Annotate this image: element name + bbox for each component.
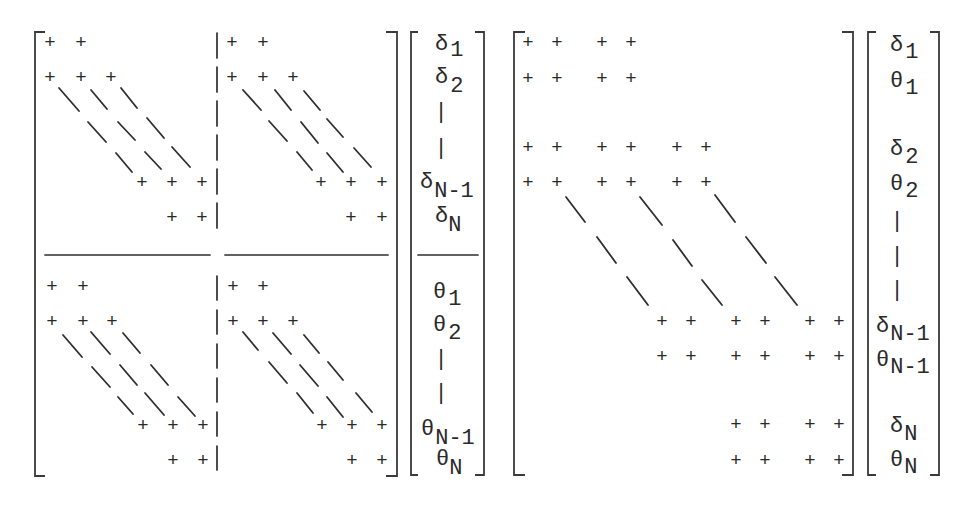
nonzero-entry: + [226, 32, 237, 54]
left-matrix-left-bracket [35, 32, 45, 476]
nonzero-entry: + [287, 67, 298, 89]
nonzero-entry: + [257, 32, 268, 54]
vertical-ellipsis: | [890, 244, 903, 269]
nonzero-entry: + [345, 172, 356, 194]
nonzero-entry: + [167, 415, 178, 437]
nonzero-entry: + [759, 346, 770, 368]
nonzero-entry: + [196, 172, 207, 194]
nonzero-entry: + [137, 415, 148, 437]
vertical-ellipsis: | [890, 209, 903, 234]
nonzero-entry: + [685, 346, 696, 368]
nonzero-entry: + [257, 276, 268, 298]
nonzero-entry: + [166, 172, 177, 194]
block-top-right: + + + + + + + + + + [226, 32, 387, 229]
nonzero-entry: + [656, 346, 667, 368]
nonzero-entry: + [596, 32, 607, 54]
nonzero-entry: + [596, 137, 607, 159]
nonzero-entry: + [44, 32, 55, 54]
nonzero-entry: + [700, 172, 711, 194]
nonzero-entry: + [77, 311, 88, 333]
vector-entry: θ2 [433, 313, 461, 346]
vector-entry: δ1 [435, 32, 463, 63]
right-unknown-vector: δ1 θ1 δ2 θ2 | | | δN-1 θN-1 δN θN [868, 32, 939, 480]
nonzero-entry: + [226, 67, 237, 89]
left-vector-right-bracket [475, 32, 484, 475]
nonzero-entry: + [804, 414, 815, 436]
nonzero-entry: + [522, 172, 533, 194]
nonzero-entry: + [625, 32, 636, 54]
right-interleaved-matrix: + + + + + + + + + + + + + + + + + + + + [514, 32, 853, 475]
nonzero-entry: + [106, 311, 117, 333]
right-matrix-right-bracket [842, 32, 853, 475]
nonzero-entry: + [257, 311, 268, 333]
block-row-2: + + + + + + + + + + + + [522, 137, 711, 194]
vector-entry: θN-1 [876, 348, 930, 380]
nonzero-entry: + [804, 311, 815, 333]
nonzero-entry: + [376, 450, 387, 472]
nonzero-entry: + [166, 207, 177, 229]
nonzero-entry: + [77, 276, 88, 298]
nonzero-entry: + [522, 68, 533, 90]
nonzero-entry: + [46, 311, 57, 333]
nonzero-entry: + [685, 311, 696, 333]
nonzero-entry: + [75, 67, 86, 89]
nonzero-entry: + [197, 450, 208, 472]
nonzero-entry: + [136, 172, 147, 194]
nonzero-entry: + [227, 276, 238, 298]
nonzero-entry: + [227, 311, 238, 333]
left-matrix-right-bracket [386, 32, 397, 476]
vertical-ellipsis: | [434, 381, 447, 406]
vector-entry: θ1 [890, 69, 918, 101]
nonzero-entry: + [759, 414, 770, 436]
nonzero-entry: + [551, 137, 562, 159]
nonzero-entry: + [345, 207, 356, 229]
nonzero-entry: + [671, 172, 682, 194]
vector-entry: δN [890, 414, 917, 447]
vector-entry: δ2 [435, 65, 463, 99]
nonzero-entry: + [671, 137, 682, 159]
vertical-ellipsis: | [890, 278, 903, 303]
nonzero-entry: + [759, 311, 770, 333]
nonzero-entry: + [316, 415, 327, 437]
nonzero-entry: + [730, 346, 741, 368]
vertical-ellipsis: | [434, 136, 447, 161]
vector-entry: δ2 [890, 137, 918, 170]
vector-entry: θN [436, 447, 462, 481]
vertical-ellipsis: | [434, 347, 447, 372]
diagonal-bands [63, 332, 195, 416]
nonzero-entry: + [257, 67, 268, 89]
block-bottom-left: + + + + + + + + + + [46, 276, 208, 472]
nonzero-entry: + [167, 450, 178, 472]
right-matrix-left-bracket [514, 32, 525, 475]
nonzero-entry: + [730, 450, 741, 472]
nonzero-entry: + [105, 67, 116, 89]
matrix-structure-figure: + + + + + + + + + + + + [0, 0, 978, 516]
nonzero-entry: + [522, 32, 533, 54]
nonzero-entry: + [730, 311, 741, 333]
nonzero-entry: + [46, 276, 57, 298]
block-top-left: + + + + + + + + + + [44, 32, 207, 229]
nonzero-entry: + [625, 172, 636, 194]
right-vector-left-bracket [868, 32, 876, 475]
nonzero-entry: + [287, 311, 298, 333]
nonzero-entry: + [833, 414, 844, 436]
nonzero-entry: + [759, 450, 770, 472]
vector-entry: δN-1 [876, 314, 930, 347]
vector-entry: δ1 [890, 33, 918, 65]
nonzero-entry: + [522, 137, 533, 159]
nonzero-entry: + [376, 415, 387, 437]
diagonal-bands [59, 88, 190, 172]
vector-entry: δN-1 [420, 170, 474, 204]
nonzero-entry: + [551, 32, 562, 54]
nonzero-entry: + [700, 137, 711, 159]
nonzero-entry: + [730, 414, 741, 436]
nonzero-entry: + [346, 450, 357, 472]
vector-entry: θN [890, 448, 917, 480]
diagonal-bands [566, 195, 797, 305]
nonzero-entry: + [44, 67, 55, 89]
nonzero-entry: + [804, 346, 815, 368]
nonzero-entry: + [376, 172, 387, 194]
nonzero-entry: + [551, 68, 562, 90]
nonzero-entry: + [625, 68, 636, 90]
figure-canvas: + + + + + + + + + + + + [0, 0, 978, 516]
